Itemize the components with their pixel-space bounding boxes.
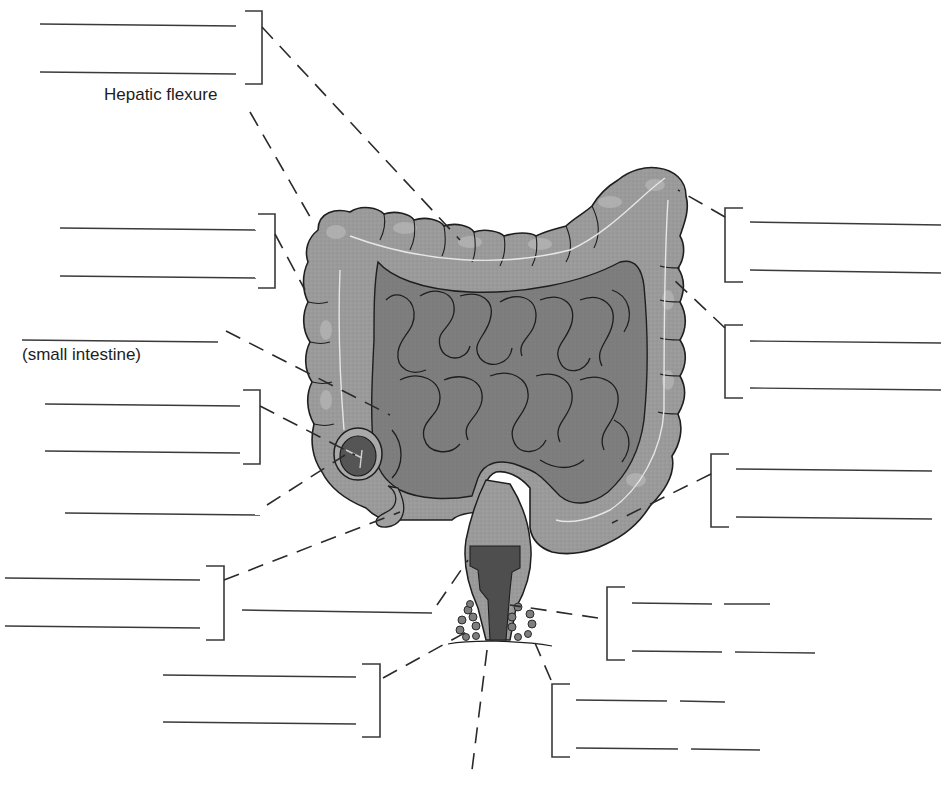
answer-blank-line[interactable] [680,701,725,702]
bracket [362,664,380,737]
bracket [725,208,743,282]
answer-blank-line[interactable] [5,626,200,628]
leader-line [224,512,400,580]
blank-group-sphincter-internal [510,587,815,660]
answer-blank-line[interactable] [632,603,712,604]
blank-group-ascending-colon [60,214,305,290]
answer-blank-line[interactable] [40,24,236,26]
leader-line [472,650,487,770]
blank-group-transverse-colon [40,11,460,240]
blank-group-anal-canal [242,560,468,613]
answer-blank-line[interactable] [691,749,760,750]
answer-blank-line[interactable] [5,578,200,580]
blank-group-sphincter-external [535,643,760,757]
answer-blank-line[interactable] [163,722,356,724]
hepatic-flexure-leader-line [250,112,313,222]
answer-blank-line[interactable] [735,652,815,653]
answer-blank-line[interactable] [242,610,432,613]
answer-blank-line[interactable] [736,517,932,519]
small-intestine-label: (small intestine) [22,345,141,365]
leader-line [275,234,305,290]
blank-group-bottom [472,650,487,770]
bracket [258,214,275,288]
leader-line [510,605,598,618]
answer-blank-line[interactable] [750,341,941,343]
bracket [245,11,262,84]
answer-blank-line[interactable] [45,404,240,406]
answer-blank-line[interactable] [60,228,256,230]
answer-blank-line[interactable] [60,276,256,278]
leader-line [383,630,470,678]
answer-blank-line[interactable] [65,513,260,515]
bracket [243,390,260,464]
bracket [552,684,570,757]
blank-group-cecum [65,455,345,515]
hepatic-flexure-label: Hepatic flexure [104,85,217,105]
answer-blank-line[interactable] [750,222,941,225]
bracket [607,587,625,660]
bracket [725,325,743,398]
answer-blank-line[interactable] [750,270,941,273]
worksheet-canvas: Hepatic flexure (small intestine) [0,0,941,795]
leader-line [437,560,468,605]
bracket [206,566,224,640]
leader-line [535,643,551,680]
answer-blank-line[interactable] [22,340,218,342]
bracket [711,454,729,527]
answer-blank-line[interactable] [576,748,678,749]
answer-blank-line[interactable] [750,388,941,390]
answer-blank-line[interactable] [45,451,240,453]
blank-group-splenic-flexure [678,190,941,282]
answer-blank-line[interactable] [163,675,356,677]
large-intestine-diagram [0,0,941,795]
answer-blank-line[interactable] [632,651,722,652]
blank-group-anus [163,630,470,737]
answer-blank-line[interactable] [736,469,932,471]
answer-blank-line[interactable] [40,72,236,74]
answer-blank-line[interactable] [576,700,667,701]
blank-group-descending-colon [672,278,941,398]
blank-group-appendix [5,512,400,640]
